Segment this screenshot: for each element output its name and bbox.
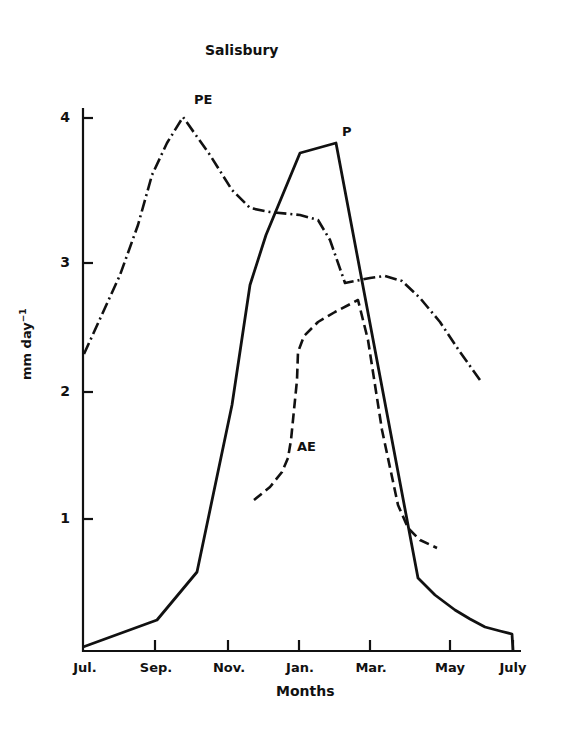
plot-area bbox=[0, 0, 567, 731]
chart-figure: Salisbury mm day−1 Months 1 2 3 4 Jul. S… bbox=[0, 0, 567, 731]
series-ae-line bbox=[254, 300, 437, 548]
series-p-line bbox=[83, 143, 513, 651]
series-pe-line bbox=[84, 117, 480, 380]
